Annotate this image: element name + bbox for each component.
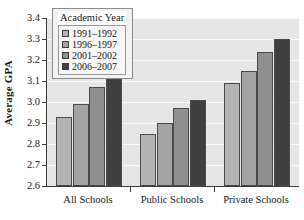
y-axis-tick-label: 3.3	[27, 34, 40, 45]
y-axis-tick-labels: 3.43.33.23.13.02.92.82.72.6	[14, 18, 40, 186]
legend-swatch-icon	[62, 52, 69, 59]
x-axis-ticks	[46, 187, 298, 193]
legend-item: 2001–2002	[62, 50, 120, 61]
y-axis-tick-mark	[42, 60, 47, 61]
bar	[89, 87, 105, 186]
bar-group	[131, 18, 215, 186]
bar-group	[215, 18, 299, 186]
legend: Academic Year 1991–19921996–19972001–200…	[52, 8, 133, 79]
y-axis-tick-mark	[42, 39, 47, 40]
y-axis-tick-label: 3.2	[27, 55, 40, 66]
x-axis-tick-mark	[214, 187, 215, 192]
y-axis-tick-mark	[42, 18, 47, 19]
bar	[56, 117, 72, 186]
bar	[73, 104, 89, 186]
y-axis-tick-label: 2.8	[27, 139, 40, 150]
legend-item: 2006–2007	[62, 61, 120, 72]
legend-item-label: 1996–1997	[72, 40, 117, 50]
bar	[140, 134, 156, 187]
bar	[241, 71, 257, 187]
x-axis-tick-labels: All SchoolsPublic SchoolsPrivate Schools	[46, 194, 298, 212]
legend-item-label: 2006–2007	[72, 62, 117, 72]
y-axis-tick-label: 3.4	[27, 13, 40, 24]
bar	[173, 108, 189, 186]
legend-title: Academic Year	[58, 11, 126, 25]
y-axis-tick-mark	[42, 102, 47, 103]
legend-swatch-icon	[62, 41, 69, 48]
y-axis-tick-mark	[42, 144, 47, 145]
bar	[106, 79, 122, 186]
bar-chart: Average GPA 3.43.33.23.13.02.92.82.72.6 …	[0, 0, 304, 220]
legend-swatch-icon	[62, 63, 69, 70]
y-axis-tick-label: 2.9	[27, 118, 40, 129]
x-axis-tick-label: All Schools	[63, 194, 112, 207]
bar	[257, 52, 273, 186]
legend-item-label: 2001–2002	[72, 51, 117, 61]
y-axis-tick-mark	[42, 123, 47, 124]
y-axis-tick-mark	[42, 81, 47, 82]
x-axis-tick-label: Private Schools	[223, 194, 289, 207]
bar	[190, 100, 206, 186]
y-axis-title-text: Average GPA	[2, 60, 14, 126]
legend-item: 1996–1997	[62, 39, 120, 50]
y-axis-tick-label: 2.7	[27, 160, 40, 171]
legend-item-label: 1991–1992	[72, 29, 117, 39]
legend-swatch-icon	[62, 30, 69, 37]
x-axis-tick-label: Public Schools	[141, 194, 204, 207]
y-axis-tick-label: 2.6	[27, 181, 40, 192]
x-axis-tick-mark	[130, 187, 131, 192]
bar	[274, 39, 290, 186]
y-axis-tick-label: 3.0	[27, 97, 40, 108]
legend-item: 1991–1992	[62, 28, 120, 39]
bar	[157, 123, 173, 186]
y-axis-tick-label: 3.1	[27, 76, 40, 87]
legend-items: 1991–19921996–19972001–20022006–2007	[58, 25, 126, 75]
y-axis-tick-mark	[42, 165, 47, 166]
bar	[224, 83, 240, 186]
